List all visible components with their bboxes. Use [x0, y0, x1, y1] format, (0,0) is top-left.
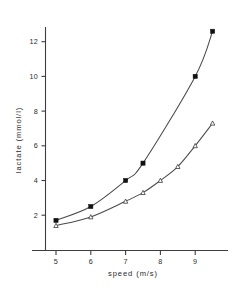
data-point-marker: [210, 121, 214, 125]
y-axis-title: lactate (mmol/l): [14, 107, 23, 173]
series-upper-curve: [54, 29, 215, 222]
data-point-marker: [54, 223, 58, 227]
x-tick-label: 7: [123, 257, 127, 266]
y-tick-label: 10: [29, 72, 38, 81]
data-point-marker: [141, 161, 145, 165]
data-series-group: [54, 29, 215, 227]
y-tick-label: 6: [34, 141, 38, 150]
data-point-marker: [54, 218, 58, 222]
x-tick-label: 8: [158, 257, 162, 266]
series-line: [56, 31, 213, 220]
y-tick-label: 2: [34, 211, 38, 220]
x-axis: 56789: [32, 251, 228, 267]
y-tick-label: 8: [34, 107, 38, 116]
x-tick-label: 5: [54, 257, 58, 266]
x-tick-group: 56789: [54, 251, 198, 267]
y-tick-label: 4: [34, 176, 38, 185]
lactate-speed-chart: 24681012 56789 speed (m/s) lactate (mmol…: [0, 0, 236, 291]
y-tick-label: 12: [29, 37, 38, 46]
x-tick-label: 9: [193, 257, 197, 266]
data-point-marker: [211, 29, 215, 33]
y-axis: 24681012: [29, 27, 45, 250]
data-point-marker: [141, 190, 145, 194]
x-axis-title: speed (m/s): [108, 269, 158, 278]
chart-canvas: 24681012 56789 speed (m/s) lactate (mmol…: [0, 0, 236, 291]
x-tick-label: 6: [89, 257, 93, 266]
data-point-marker: [89, 204, 93, 208]
data-point-marker: [193, 74, 197, 78]
y-tick-group: 24681012: [29, 37, 45, 220]
data-point-marker: [89, 215, 93, 219]
data-point-marker: [124, 178, 128, 182]
data-point-marker: [123, 199, 127, 203]
